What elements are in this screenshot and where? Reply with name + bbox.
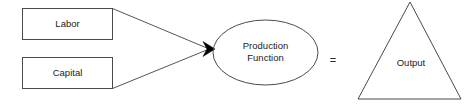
connector-labor-to-production bbox=[113, 9, 209, 49]
capital-box-label: Capital bbox=[53, 67, 83, 78]
output-triangle[interactable] bbox=[358, 2, 461, 99]
connector-capital-to-production bbox=[113, 50, 209, 89]
production-function-label-line1: Production bbox=[243, 40, 288, 51]
labor-box-label: Labor bbox=[55, 18, 79, 29]
production-function-label-line2: Function bbox=[247, 52, 283, 63]
equals-operator: = bbox=[330, 54, 336, 66]
diagram-svg: Labor Capital Production Function = Outp… bbox=[0, 0, 476, 106]
diagram-canvas: Labor Capital Production Function = Outp… bbox=[0, 0, 476, 106]
output-triangle-label: Output bbox=[397, 57, 426, 68]
